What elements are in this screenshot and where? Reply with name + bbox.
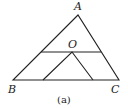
- vertex-label-b: B: [8, 84, 16, 95]
- point-label-o: O: [68, 39, 77, 50]
- triangle-diagram: [0, 0, 128, 108]
- inner-triangle: [43, 52, 93, 80]
- triangle-figure: A B C O (a): [0, 0, 128, 108]
- vertex-label-c: C: [111, 84, 119, 95]
- vertex-label-a: A: [74, 1, 82, 12]
- outer-triangle-abc: [13, 15, 119, 80]
- figure-caption: (a): [57, 95, 71, 105]
